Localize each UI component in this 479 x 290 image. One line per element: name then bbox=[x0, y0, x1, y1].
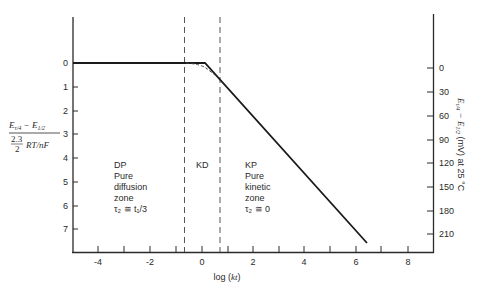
right-tick-label: 30 bbox=[439, 87, 449, 97]
right-y-tick-labels: 0 30 60 90 120 150 180 210 bbox=[439, 63, 454, 239]
svg-text:KP: KP bbox=[245, 160, 257, 170]
x-tick-label: 8 bbox=[405, 257, 410, 267]
left-tick-label: 6 bbox=[63, 201, 68, 211]
right-tick-label: 210 bbox=[439, 229, 454, 239]
kd-zone-annotation: KD bbox=[196, 160, 209, 170]
left-tick-label: 0 bbox=[63, 58, 68, 68]
left-tick-label: 4 bbox=[63, 153, 68, 163]
svg-text:Pure: Pure bbox=[114, 171, 133, 181]
dp-zone-annotation: DP Pure diffusion zone τ₂ ≅ t₁/3 bbox=[114, 160, 147, 214]
x-tick-labels: -4 -2 0 2 4 6 8 bbox=[94, 257, 411, 267]
svg-text:RT/nF: RT/nF bbox=[25, 140, 50, 150]
left-y-axis-title: Eτ/4 − E1/2 2.3 2 RT/nF bbox=[8, 120, 60, 154]
svg-text:Pure: Pure bbox=[245, 171, 264, 181]
right-tick-label: 120 bbox=[439, 158, 454, 168]
right-tick-label: 0 bbox=[439, 63, 444, 73]
right-tick-label: 60 bbox=[439, 111, 449, 121]
x-axis-title: log (kt) bbox=[213, 272, 240, 282]
x-tick-label: 6 bbox=[353, 257, 358, 267]
svg-text:2.3: 2.3 bbox=[11, 134, 23, 144]
svg-text:τ₂ ≅ t₁/3: τ₂ ≅ t₁/3 bbox=[114, 204, 147, 214]
left-tick-label: 2 bbox=[63, 106, 68, 116]
x-tick-label: 4 bbox=[301, 257, 306, 267]
chart-canvas: 0 1 2 3 4 5 6 7 0 30 60 90 120 150 180 2… bbox=[0, 0, 479, 290]
x-tick-label: 0 bbox=[199, 257, 204, 267]
left-y-tick-labels: 0 1 2 3 4 5 6 7 bbox=[63, 58, 68, 234]
x-ticks bbox=[98, 246, 408, 252]
svg-text:DP: DP bbox=[114, 160, 127, 170]
right-tick-label: 180 bbox=[439, 206, 454, 216]
svg-text:Eτ/4 − E1/2: Eτ/4 − E1/2 bbox=[8, 120, 45, 131]
x-tick-label: -4 bbox=[94, 257, 102, 267]
left-tick-label: 5 bbox=[63, 177, 68, 187]
svg-text:τ₂ ≅ 0: τ₂ ≅ 0 bbox=[245, 204, 270, 214]
left-tick-label: 1 bbox=[63, 82, 68, 92]
right-tick-label: 150 bbox=[439, 182, 454, 192]
left-tick-label: 3 bbox=[63, 129, 68, 139]
x-tick-label: -2 bbox=[146, 257, 154, 267]
svg-text:zone: zone bbox=[245, 193, 265, 203]
svg-text:zone: zone bbox=[114, 193, 134, 203]
x-tick-label: 2 bbox=[250, 257, 255, 267]
kp-zone-annotation: KP Pure kinetic zone τ₂ ≅ 0 bbox=[245, 160, 271, 214]
left-y-ticks bbox=[73, 87, 78, 229]
svg-text:KD: KD bbox=[196, 160, 209, 170]
right-tick-label: 90 bbox=[439, 135, 449, 145]
right-y-ticks bbox=[427, 68, 433, 234]
svg-text:2: 2 bbox=[15, 144, 20, 154]
svg-text:kinetic: kinetic bbox=[245, 182, 271, 192]
svg-text:diffusion: diffusion bbox=[114, 182, 147, 192]
svg-text:Eτ/4 − E1/2 (mV) at 25 °C: Eτ/4 − E1/2 (mV) at 25 °C bbox=[455, 97, 466, 192]
left-tick-label: 7 bbox=[63, 224, 68, 234]
right-y-axis-title: Eτ/4 − E1/2 (mV) at 25 °C bbox=[455, 97, 466, 192]
